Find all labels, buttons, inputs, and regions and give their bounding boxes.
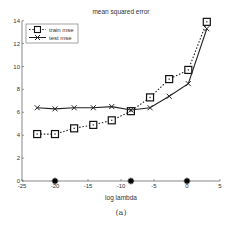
x-tick-label: -10 [117,183,126,189]
x-marker-icon [204,26,209,31]
legend-square-icon [35,27,41,33]
star-marker-icon [184,178,190,184]
figure-caption: (a) [115,208,126,217]
y-tick-label: 14 [13,18,20,24]
legend: train msetest mse [26,24,78,43]
x-tick-label: -25 [18,183,27,189]
legend-label: train mse [49,27,74,33]
star-marker-icon [52,178,58,184]
y-tick-label: 6 [17,109,21,115]
y-tick-label: 4 [17,132,21,138]
chart-title: mean squared error [92,8,150,16]
x-tick-label: -5 [151,183,157,189]
y-tick-label: 10 [13,64,20,70]
axes: 02468101214-25-20-15-10-505 [13,18,222,189]
star-marker-icon [128,178,134,184]
y-tick-label: 2 [17,155,21,161]
legend-label: test mse [49,35,72,41]
y-tick-label: 8 [17,86,21,92]
y-tick-label: 12 [13,41,20,47]
x-axis-label: log lambda [105,194,137,202]
x-tick-label: 5 [218,183,222,189]
x-marker-icon [167,94,172,99]
x-tick-label: -15 [84,183,93,189]
mse-chart: mean squared error 02468101214-25-20-15-… [0,0,235,226]
